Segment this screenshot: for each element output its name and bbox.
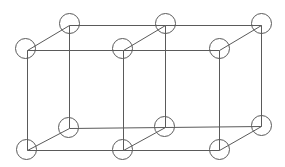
edge-bb1-bb2 (166, 127, 262, 128)
edge-ft0-bt0 (28, 26, 70, 51)
edge-fb2-bb2 (220, 127, 262, 151)
edge-bb0-bb1 (70, 128, 166, 129)
edge-fb0-bb0 (28, 129, 70, 151)
cubic-lattice-diagram (0, 0, 285, 167)
node-circle-ft1 (113, 39, 133, 59)
node-circle-ft0 (16, 39, 36, 59)
edge-ft2-bt2 (220, 26, 262, 51)
lattice-edges (28, 26, 262, 151)
edge-ft1-bt1 (124, 26, 166, 51)
edge-fb1-bb1 (124, 128, 166, 151)
node-circle-fb1 (113, 140, 133, 160)
node-circle-bb0 (59, 118, 79, 138)
node-circle-fb0 (17, 140, 37, 160)
node-circle-bb1 (155, 117, 175, 137)
lattice-nodes (16, 14, 272, 160)
